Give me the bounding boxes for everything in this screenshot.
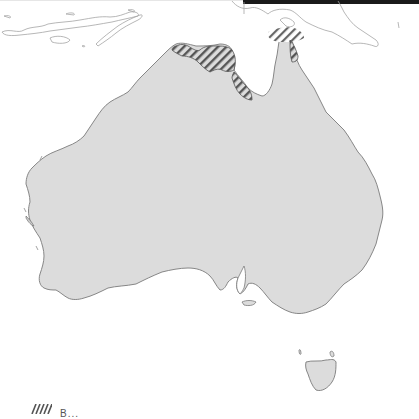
legend: B... xyxy=(30,404,79,416)
timor-island xyxy=(96,15,142,46)
lesser-sunda-islands xyxy=(2,12,139,36)
new-guinea-outline xyxy=(232,1,378,47)
flinders-island xyxy=(330,351,334,357)
neighbor-islands xyxy=(2,1,399,47)
hatched-torres-strait xyxy=(268,27,304,42)
hatched-cape-york xyxy=(290,40,298,62)
sumba-island xyxy=(50,36,70,43)
legend-label: B... xyxy=(60,409,79,419)
king-island xyxy=(299,350,301,355)
australia-mainland xyxy=(26,28,383,314)
tasmania xyxy=(306,360,336,391)
legend-hatch-swatch xyxy=(30,404,52,414)
kangaroo-island xyxy=(242,301,256,306)
